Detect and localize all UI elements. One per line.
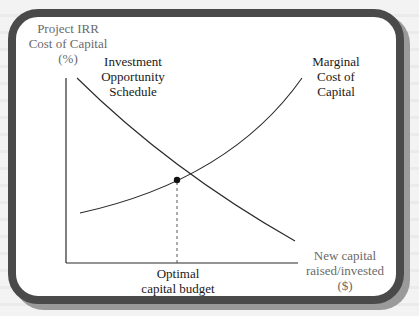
x-axis-label-line3: ($) xyxy=(300,278,390,293)
optimal-label-line2: capital budget xyxy=(132,281,224,296)
ios-label-line1: Investment xyxy=(88,54,178,69)
y-axis-label-line1: Project IRR xyxy=(18,21,118,36)
ios-label: Investment Opportunity Schedule xyxy=(88,54,178,99)
x-axis-label-line2: raised/invested xyxy=(300,263,390,278)
mcc-label-line1: Marginal xyxy=(306,54,366,69)
mcc-label-line2: Cost of xyxy=(306,69,366,84)
optimal-label-line1: Optimal xyxy=(132,266,224,281)
x-axis-label: New capital raised/invested ($) xyxy=(300,248,390,293)
y-axis-label-line2: Cost of Capital xyxy=(18,36,118,51)
optimal-capital-budget-label: Optimal capital budget xyxy=(132,266,224,296)
x-axis-label-line1: New capital xyxy=(300,248,390,263)
ios-label-line2: Opportunity xyxy=(88,69,178,84)
mcc-label: Marginal Cost of Capital xyxy=(306,54,366,99)
ios-label-line3: Schedule xyxy=(88,84,178,99)
investment-opportunity-schedule-curve xyxy=(77,78,295,241)
mcc-label-line3: Capital xyxy=(306,84,366,99)
intersection-point xyxy=(174,177,180,183)
